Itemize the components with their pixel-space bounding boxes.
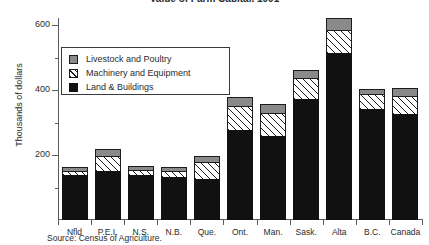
segment-land-buildings <box>128 175 154 221</box>
x-tick-label-alta: Alta <box>323 227 356 237</box>
x-tick-label-que: Que. <box>190 227 223 237</box>
segment-machinery <box>392 96 418 115</box>
chart-legend: Livestock and Poultry Machinery and Equi… <box>61 47 230 95</box>
legend-item-machinery: Machinery and Equipment <box>69 66 229 80</box>
bar-que <box>194 156 220 220</box>
segment-livestock <box>95 149 121 156</box>
segment-land-buildings <box>227 130 253 220</box>
x-tick-label-ont: Ont. <box>223 227 256 237</box>
x-tick-9 <box>356 220 357 225</box>
segment-livestock <box>326 18 352 30</box>
gray-swatch-icon <box>69 55 78 64</box>
segment-land-buildings <box>392 114 418 220</box>
segment-land-buildings <box>95 171 121 220</box>
segment-livestock <box>260 104 286 113</box>
segment-land-buildings <box>359 109 385 220</box>
legend-item-land: Land & Buildings <box>69 80 229 94</box>
legend-label-machinery: Machinery and Equipment <box>86 68 191 78</box>
segment-land-buildings <box>260 136 286 220</box>
legend-label-livestock: Livestock and Poultry <box>86 54 172 64</box>
bar-canada <box>392 88 418 220</box>
bar-pei <box>95 149 121 221</box>
segment-land-buildings <box>326 53 352 220</box>
x-tick-1 <box>91 220 92 225</box>
segment-land-buildings <box>194 179 220 220</box>
bar-sask <box>293 70 319 220</box>
legend-label-land: Land & Buildings <box>86 82 154 92</box>
y-tick-label-600: 600 <box>14 19 50 29</box>
segment-livestock <box>227 97 253 106</box>
segment-machinery <box>95 156 121 172</box>
chart-container: Value of Farm Capital, 1991 Thousands of… <box>0 0 429 245</box>
bar-series-area <box>58 0 423 220</box>
y-tick-label-200: 200 <box>14 149 50 159</box>
x-tick-6 <box>257 220 258 225</box>
bar-bc <box>359 89 385 220</box>
hatched-swatch-icon <box>69 69 78 78</box>
x-tick-label-sask: Sask. <box>290 227 323 237</box>
x-tick-7 <box>290 220 291 225</box>
segment-land-buildings <box>161 177 187 220</box>
segment-machinery <box>326 30 352 53</box>
x-tick-2 <box>124 220 125 225</box>
segment-machinery <box>227 106 253 130</box>
y-tick-label-400: 400 <box>14 84 50 94</box>
x-tick-label-bc: B.C. <box>356 227 389 237</box>
x-tick-3 <box>157 220 158 225</box>
bar-nb <box>161 167 187 220</box>
x-tick-label-canada: Canada <box>389 227 422 237</box>
x-tick-label-nb: N.B. <box>157 227 190 237</box>
bar-ont <box>227 97 253 220</box>
x-tick-end <box>422 220 423 225</box>
bar-man <box>260 104 286 220</box>
segment-land-buildings <box>62 175 88 221</box>
x-tick-5 <box>223 220 224 225</box>
segment-land-buildings <box>293 99 319 220</box>
segment-machinery <box>293 78 319 99</box>
x-tick-label-man: Man. <box>257 227 290 237</box>
segment-machinery <box>194 162 220 179</box>
bar-alta <box>326 18 352 220</box>
x-tick-0 <box>58 220 59 225</box>
segment-machinery <box>359 94 385 109</box>
black-swatch-icon <box>69 83 78 92</box>
source-note: Source: Census of Agriculture. <box>47 233 162 243</box>
segment-machinery <box>260 113 286 136</box>
x-tick-10 <box>389 220 390 225</box>
segment-livestock <box>293 70 319 78</box>
legend-item-livestock: Livestock and Poultry <box>69 52 229 66</box>
segment-livestock <box>392 88 418 95</box>
x-tick-4 <box>190 220 191 225</box>
bar-nfld <box>62 167 88 220</box>
bar-ns <box>128 166 154 220</box>
x-tick-8 <box>323 220 324 225</box>
